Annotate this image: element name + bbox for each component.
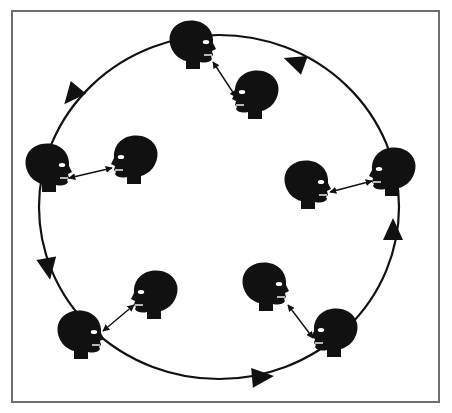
head-icon-inner-top xyxy=(232,71,278,119)
direction-arrow-icon-5 xyxy=(383,218,403,240)
head-icon-inner-bottom-right xyxy=(243,263,289,311)
head-icon-inner-bottom-left xyxy=(131,271,177,319)
head-icon-outer-top xyxy=(170,21,216,69)
heads xyxy=(26,21,416,359)
double-arrow-left xyxy=(69,168,112,178)
head-icon-inner-right xyxy=(285,161,331,209)
direction-arrow-icon-1 xyxy=(280,48,308,74)
head-icon-outer-left xyxy=(26,144,72,192)
direction-arrow-icon-4 xyxy=(251,366,275,388)
head-icon-inner-left xyxy=(111,136,157,184)
conversation-links xyxy=(69,62,372,338)
double-arrow-top xyxy=(213,62,236,97)
communication-cycle-diagram xyxy=(0,0,452,413)
double-arrow-bottom-left xyxy=(103,305,134,331)
head-icon-outer-bottom-left xyxy=(58,311,104,359)
double-arrow-right xyxy=(330,181,372,192)
direction-arrow-icon-2 xyxy=(57,81,86,111)
diagram-canvas xyxy=(0,0,452,413)
direction-arrow-icon-3 xyxy=(36,256,60,281)
head-icon-outer-right xyxy=(369,148,415,196)
double-arrow-bottom-right xyxy=(288,305,313,338)
